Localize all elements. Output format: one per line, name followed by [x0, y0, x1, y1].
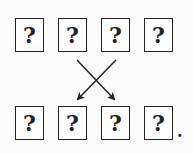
trailing-period: . — [177, 122, 183, 141]
box-label: ? — [152, 110, 165, 136]
arrow-top3-to-bottom2 — [78, 60, 116, 99]
bottom-box-2: ? — [58, 106, 87, 140]
box-label: ? — [66, 110, 79, 136]
arrow-top2-to-bottom3 — [77, 60, 114, 99]
box-label: ? — [23, 110, 36, 136]
bottom-box-1: ? — [15, 106, 44, 140]
box-label: ? — [109, 110, 122, 136]
bottom-box-3: ? — [101, 106, 130, 140]
bottom-box-4: ? — [144, 106, 173, 140]
